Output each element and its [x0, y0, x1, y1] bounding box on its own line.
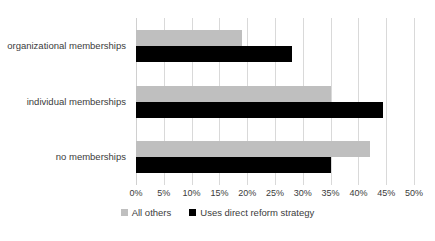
bar-chart: organizational membershipsindividual mem… — [0, 0, 435, 241]
x-tick-0pct: 0% — [129, 188, 142, 198]
x-tick-15pct: 15% — [210, 188, 228, 198]
category-label-no-memberships: no memberships — [0, 151, 126, 162]
x-tick-35pct: 35% — [322, 188, 340, 198]
x-axis-tick-labels: 0%5%10%15%20%25%30%35%40%45%50% — [136, 185, 414, 201]
legend-swatch-icon — [189, 209, 196, 216]
legend-swatch-icon — [121, 209, 128, 216]
legend-item-uses-direct-reform-strategy[interactable]: Uses direct reform strategy — [189, 207, 314, 218]
legend-label: All others — [132, 207, 172, 218]
legend-label: Uses direct reform strategy — [200, 207, 314, 218]
x-tick-45pct: 45% — [377, 188, 395, 198]
x-tick-10pct: 10% — [183, 188, 201, 198]
x-tick-25pct: 25% — [266, 188, 284, 198]
category-axis-labels: organizational membershipsindividual mem… — [0, 18, 131, 185]
x-tick-20pct: 20% — [238, 188, 256, 198]
category-label-individual-memberships: individual memberships — [0, 96, 126, 107]
bar-no-memberships-uses-direct-reform-strategy — [136, 157, 331, 173]
chart-legend: All othersUses direct reform strategy — [0, 207, 435, 218]
bar-individual-memberships-all-others — [136, 86, 331, 102]
legend-item-all-others[interactable]: All others — [121, 207, 172, 218]
x-tick-30pct: 30% — [294, 188, 312, 198]
bar-organizational-memberships-uses-direct-reform-strategy — [136, 46, 292, 62]
x-tick-40pct: 40% — [349, 188, 367, 198]
bar-organizational-memberships-all-others — [136, 30, 242, 46]
bar-no-memberships-all-others — [136, 141, 370, 157]
bar-individual-memberships-uses-direct-reform-strategy — [136, 102, 383, 118]
plot-area — [136, 18, 414, 185]
category-label-organizational-memberships: organizational memberships — [0, 40, 126, 51]
x-tick-50pct: 50% — [405, 188, 423, 198]
gridline-50pct — [414, 18, 415, 185]
bar-series-group — [136, 18, 414, 185]
x-tick-5pct: 5% — [157, 188, 170, 198]
